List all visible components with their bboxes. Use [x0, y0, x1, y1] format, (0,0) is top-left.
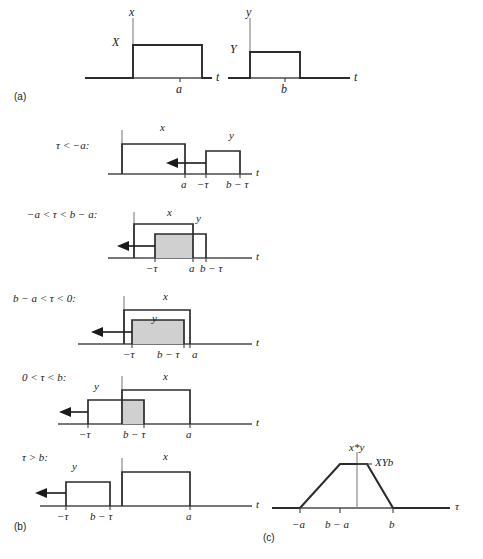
x-pulse-amplitude-label: X — [112, 36, 119, 48]
case-2-overlap-shade — [155, 234, 193, 258]
case-1-x-rect — [122, 144, 185, 174]
result-trapezoid-curve — [272, 464, 450, 508]
result-tick-label-2: b — [389, 519, 395, 530]
case-4-x-label: x — [163, 371, 168, 382]
case-1-arrow-head — [166, 158, 178, 168]
case-3-tick-label-2: a — [192, 349, 198, 360]
convolution-figure: x X t a y Y t b (a) τ < −a: x y t a −τ b… — [0, 0, 483, 559]
case-2-y-label: y — [196, 213, 201, 224]
case-4-y-label: y — [94, 381, 99, 392]
result-tick-label-1: b − a — [325, 519, 349, 530]
panel-tag-c: (c) — [263, 533, 275, 543]
panel-tag-a: (a) — [14, 92, 26, 102]
y-pulse-vaxis-label: y — [246, 6, 251, 18]
case-1-y-rect — [206, 151, 240, 174]
x-pulse-tick-label-a: a — [176, 83, 182, 95]
result-tick-label-0: −a — [292, 519, 305, 530]
y-pulse-tick-label-b: b — [281, 83, 287, 95]
case-1-condition: τ < −a: — [56, 140, 89, 151]
case-2-tick-label-0: −τ — [146, 263, 157, 274]
y-pulse-curve — [228, 52, 350, 78]
x-pulse-plot — [85, 18, 212, 82]
case-3-y-label: y — [152, 313, 157, 324]
case-3-condition: b − a < τ < 0: — [13, 293, 76, 304]
case-3-haxis-label: t — [256, 337, 259, 348]
y-pulse-haxis-label: t — [354, 71, 357, 83]
case-2-x-label: x — [167, 207, 172, 218]
panel-c-graphics — [0, 430, 483, 550]
case-1-x-label: x — [160, 122, 165, 133]
case-3-arrow-head — [91, 327, 103, 337]
y-pulse-plot — [228, 18, 350, 82]
case-4-condition: 0 < τ < b: — [22, 372, 66, 383]
result-peak-label: XYb — [375, 457, 393, 468]
case-1-tick-label-0: a — [181, 179, 187, 190]
case-4-haxis-label: t — [256, 417, 259, 428]
case-2-tick-label-1: a — [189, 263, 195, 274]
case-2-tick-label-2: b − τ — [200, 263, 222, 274]
case-4-graphics — [0, 368, 483, 438]
case-2-condition: −a < τ < b − a: — [27, 209, 97, 220]
case-4-overlap-shade — [122, 400, 144, 424]
case-1-y-label: y — [229, 130, 234, 141]
x-pulse-curve — [85, 45, 212, 78]
case-3-overlap-shade — [132, 320, 184, 344]
result-vaxis-label: x*y — [349, 442, 364, 453]
case-1-tick-label-2: b − τ — [226, 179, 248, 190]
result-haxis-label: τ — [455, 501, 459, 512]
case-3-tick-label-0: −τ — [123, 349, 134, 360]
case-2-arrow-head — [117, 241, 129, 251]
x-pulse-vaxis-label: x — [129, 6, 134, 18]
case-3-x-label: x — [163, 291, 168, 302]
panel-a-graphics — [0, 0, 483, 110]
case-1-tick-label-1: −τ — [197, 179, 208, 190]
case-3-tick-label-1: b − τ — [157, 349, 179, 360]
case-2-haxis-label: t — [256, 251, 259, 262]
case-4-arrow-head — [59, 407, 71, 417]
y-pulse-amplitude-label: Y — [230, 43, 237, 55]
case-1-haxis-label: t — [256, 167, 259, 178]
x-pulse-haxis-label: t — [216, 71, 219, 83]
